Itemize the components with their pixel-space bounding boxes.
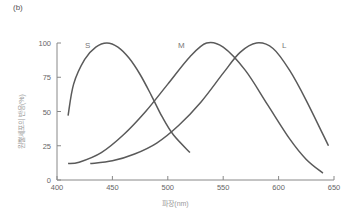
x-tick-label: 500 (162, 183, 175, 192)
x-tick-label: 650 (328, 183, 341, 192)
y-tick-label: 100 (38, 39, 51, 48)
curve-label-m: M (178, 41, 185, 50)
y-tick-label: 50 (43, 108, 51, 117)
cone-response-chart: 0255075100400450500550600650파장(nm)원뿔세포의 … (0, 0, 357, 214)
y-tick-label: 75 (43, 73, 51, 82)
y-tick-label: 25 (43, 142, 51, 151)
y-axis-title: 원뿔세포의 반응(%) (17, 94, 26, 149)
x-tick-label: 550 (217, 183, 230, 192)
x-axis-title: 파장(nm) (162, 199, 188, 208)
x-tick-label: 400 (51, 183, 64, 192)
x-tick-label: 450 (106, 183, 119, 192)
curve-s (68, 43, 190, 153)
x-tick-label: 600 (272, 183, 285, 192)
curve-label-s: S (85, 41, 90, 50)
curve-label-l: L (282, 41, 287, 50)
curve-l (90, 43, 328, 164)
